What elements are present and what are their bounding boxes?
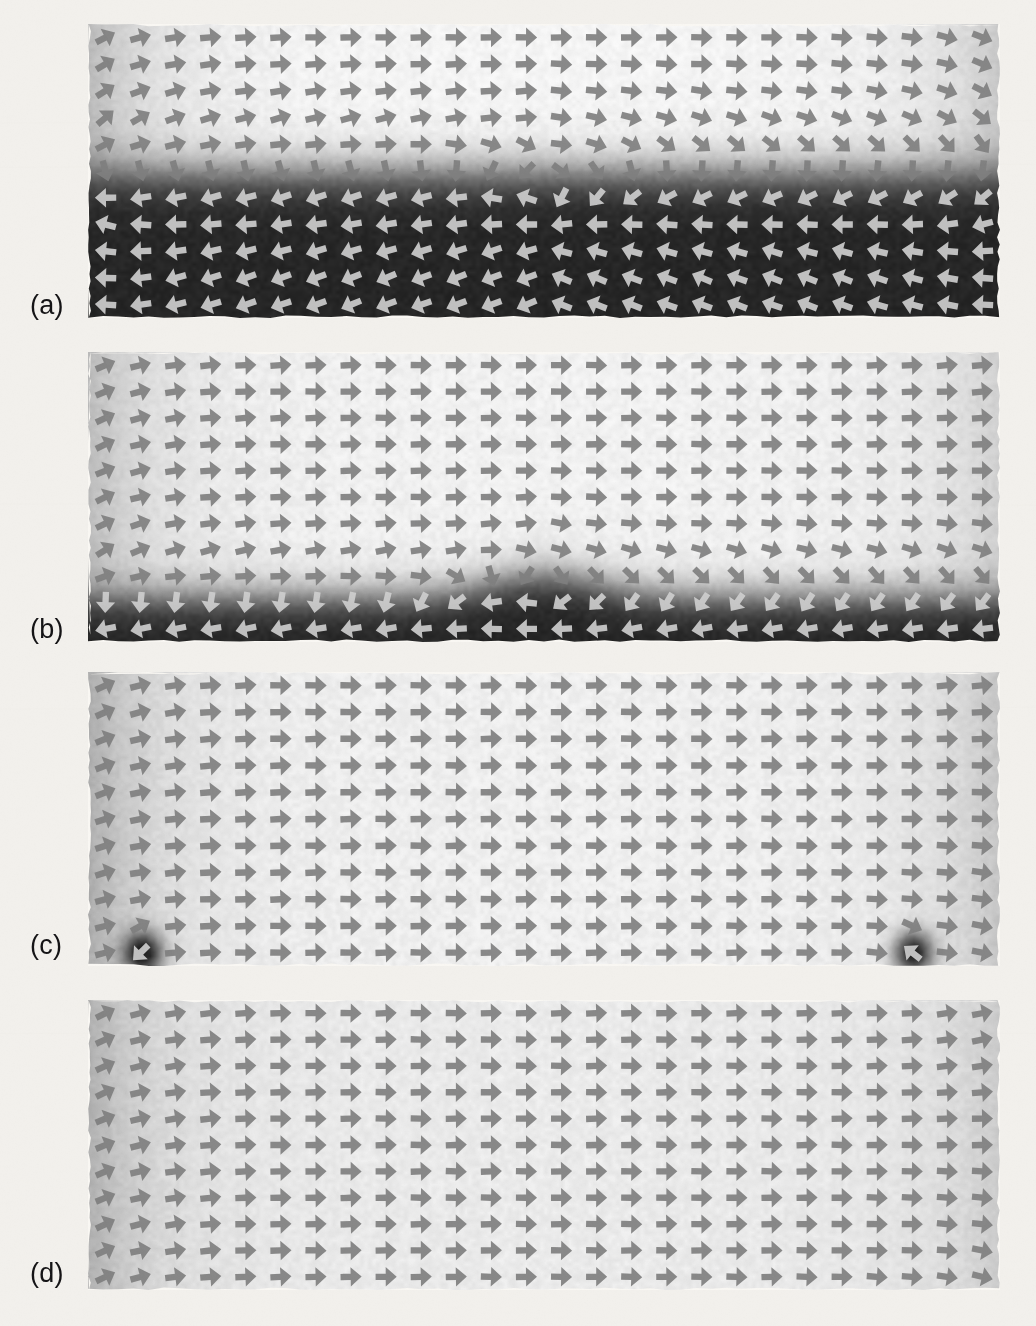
panel-c: [88, 672, 1000, 966]
panel-label-b: (b): [30, 614, 64, 645]
panel-b-arrows: [88, 352, 1000, 642]
panel-label-d: (d): [30, 1258, 64, 1289]
figure-root: (a) (b) (c) (d): [0, 0, 1036, 1326]
panel-label-a: (a): [30, 290, 64, 321]
panel-a-arrows: [88, 24, 1000, 318]
panel-d: [88, 1000, 1000, 1290]
panel-c-arrows: [88, 672, 1000, 966]
panel-d-arrows: [88, 1000, 1000, 1290]
panel-a: [88, 24, 1000, 318]
panel-label-c: (c): [30, 930, 62, 961]
panel-b: [88, 352, 1000, 642]
